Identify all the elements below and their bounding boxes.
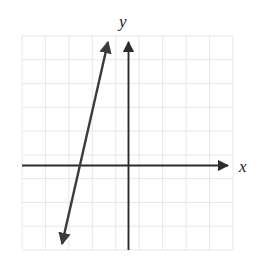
x-axis-label: x xyxy=(238,157,247,176)
plot-background xyxy=(22,36,233,250)
coordinate-plane-svg: x y xyxy=(0,0,259,268)
y-axis-label: y xyxy=(117,12,127,31)
graph-figure: x y xyxy=(0,0,259,268)
